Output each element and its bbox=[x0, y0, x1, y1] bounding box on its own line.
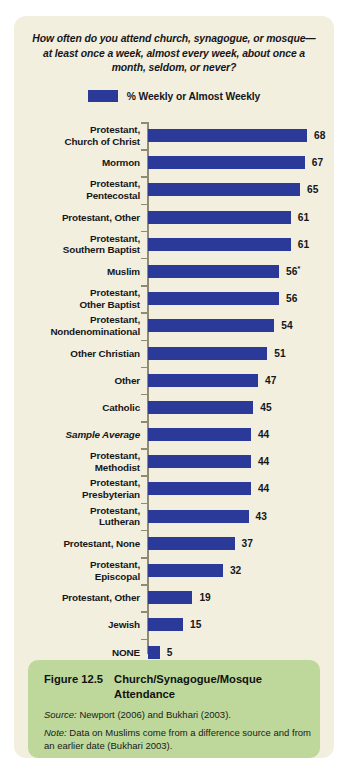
caption-source: Source: Newport (2006) and Bukhari (2003… bbox=[44, 708, 310, 721]
bar-value-label: 45 bbox=[260, 402, 271, 413]
chart-legend: % Weekly or Almost Weekly bbox=[14, 90, 334, 102]
bar-category-label: Protestant,Lutheran bbox=[14, 505, 140, 528]
bar-value-label: 68 bbox=[314, 130, 325, 141]
legend-label: % Weekly or Almost Weekly bbox=[127, 91, 261, 102]
bar bbox=[148, 319, 274, 332]
axis-tick bbox=[141, 611, 148, 613]
axis-tick bbox=[141, 394, 148, 396]
bar-row: Catholic45 bbox=[14, 394, 334, 421]
question-title: How often do you attend church, synagogu… bbox=[32, 32, 316, 76]
axis-tick bbox=[141, 584, 148, 586]
bar-row: Protestant,Nondenominational54 bbox=[14, 312, 334, 339]
bar-chart-plot: Protestant,Church of Christ68Mormon67Pro… bbox=[14, 122, 334, 662]
axis-tick bbox=[141, 367, 148, 369]
bar-value-label: 65 bbox=[307, 184, 318, 195]
bar-with-value: 15 bbox=[148, 618, 201, 631]
axis-tick bbox=[141, 639, 148, 641]
bar-row: Protestant, None37 bbox=[14, 530, 334, 557]
bar bbox=[148, 510, 249, 523]
axis-tick bbox=[141, 204, 148, 206]
bar-row: Protestant,Presbyterian44 bbox=[14, 475, 334, 502]
bar-category-label: Sample Average bbox=[14, 429, 140, 441]
bar-category-label: Catholic bbox=[14, 402, 140, 414]
bar-value-label: 67 bbox=[312, 157, 323, 168]
axis-tick bbox=[141, 340, 148, 342]
bar-category-label: Protestant,Methodist bbox=[14, 450, 140, 473]
bar-value-label: 51 bbox=[274, 348, 285, 359]
bar-category-label: Other bbox=[14, 375, 140, 387]
bar bbox=[148, 347, 267, 360]
bar-category-label: Protestant, None bbox=[14, 538, 140, 550]
bar-category-label: Jewish bbox=[14, 619, 140, 631]
bar-value-label: 54 bbox=[281, 320, 292, 331]
bar bbox=[148, 401, 253, 414]
axis-tick bbox=[141, 285, 148, 287]
bar-with-value: 56* bbox=[148, 265, 300, 278]
bar-with-value: 68 bbox=[148, 129, 325, 142]
bar-with-value: 67 bbox=[148, 156, 323, 169]
bar-row: Protestant,Methodist44 bbox=[14, 448, 334, 475]
bar-value-label: 5 bbox=[167, 647, 173, 658]
bar-value-label: 61 bbox=[298, 212, 309, 223]
bar-row: Other Christian51 bbox=[14, 340, 334, 367]
caption-heading: Figure 12.5 Church/Synagogue/Mosque Atte… bbox=[44, 672, 306, 701]
bar-value-label: 61 bbox=[298, 239, 309, 250]
bar-with-value: 5 bbox=[148, 646, 172, 659]
bar-category-label: Protestant,Episcopal bbox=[14, 559, 140, 582]
bar-with-value: 56 bbox=[148, 292, 297, 305]
bar-with-value: 61 bbox=[148, 211, 309, 224]
bar bbox=[148, 265, 279, 278]
bar-category-label: NONE bbox=[14, 647, 140, 659]
bar-value-label: 56* bbox=[286, 265, 300, 277]
bar bbox=[148, 455, 251, 468]
bar bbox=[148, 183, 300, 196]
axis-tick bbox=[141, 149, 148, 151]
bar-value-footnote-marker: * bbox=[297, 265, 300, 272]
bar-category-label: Protestant,Other Baptist bbox=[14, 287, 140, 310]
bar-category-label: Muslim bbox=[14, 266, 140, 278]
bar-with-value: 43 bbox=[148, 510, 267, 523]
caption-source-text: Newport (2006) and Bukhari (2003). bbox=[77, 709, 231, 720]
bar bbox=[148, 646, 160, 659]
bar-row: Protestant,Other Baptist56 bbox=[14, 285, 334, 312]
axis-tick bbox=[141, 503, 148, 505]
bar-row: Protestant,Lutheran43 bbox=[14, 503, 334, 530]
bar-category-label: Protestant, Other bbox=[14, 592, 140, 604]
bar bbox=[148, 537, 235, 550]
bar-value-label: 44 bbox=[258, 429, 269, 440]
bar-with-value: 32 bbox=[148, 564, 241, 577]
axis-tick bbox=[141, 231, 148, 233]
bar-category-label: Mormon bbox=[14, 157, 140, 169]
legend-color-swatch bbox=[88, 90, 118, 102]
bar-category-label: Protestant,Pentecostal bbox=[14, 178, 140, 201]
bar-row: Protestant, Other19 bbox=[14, 584, 334, 611]
bar-row: Protestant,Pentecostal65 bbox=[14, 176, 334, 203]
bar-row: Other47 bbox=[14, 367, 334, 394]
caption-note-label: Note: bbox=[44, 727, 67, 738]
caption-figure-number: Figure 12.5 bbox=[44, 672, 103, 701]
caption-source-label: Source: bbox=[44, 709, 77, 720]
figure-card: How often do you attend church, synagogu… bbox=[14, 16, 334, 758]
bar-with-value: 65 bbox=[148, 183, 318, 196]
caption-note-text: Data on Muslims come from a difference s… bbox=[44, 727, 311, 751]
bar-with-value: 61 bbox=[148, 238, 309, 251]
axis-tick bbox=[141, 258, 148, 260]
figure-caption-box: Figure 12.5 Church/Synagogue/Mosque Atte… bbox=[28, 660, 320, 758]
bar-value-label: 44 bbox=[258, 456, 269, 467]
bar-with-value: 44 bbox=[148, 455, 269, 468]
bar-value-label: 32 bbox=[230, 565, 241, 576]
bar bbox=[148, 591, 192, 604]
bar bbox=[148, 211, 291, 224]
axis-tick bbox=[141, 475, 148, 477]
axis-tick bbox=[141, 312, 148, 314]
bar-row: Protestant,Church of Christ68 bbox=[14, 122, 334, 149]
bar bbox=[148, 482, 251, 495]
bar-row: Mormon67 bbox=[14, 149, 334, 176]
bar-category-label: Protestant,Nondenominational bbox=[14, 314, 140, 337]
bar-category-label: Protestant, Other bbox=[14, 212, 140, 224]
bar-value-label: 47 bbox=[265, 375, 276, 386]
bar-with-value: 45 bbox=[148, 401, 272, 414]
bar-value-label: 44 bbox=[258, 483, 269, 494]
bar bbox=[148, 374, 258, 387]
axis-tick bbox=[141, 557, 148, 559]
